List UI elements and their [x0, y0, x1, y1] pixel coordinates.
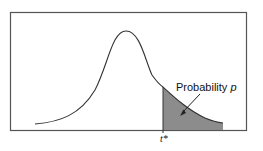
density-diagram: Probability p t* — [0, 0, 263, 151]
shaded-tail-region — [163, 87, 223, 130]
plot-frame — [11, 13, 247, 131]
annotation-label: Probability p — [176, 81, 237, 93]
density-curve — [35, 31, 223, 124]
t-star-label: t* — [160, 133, 168, 144]
